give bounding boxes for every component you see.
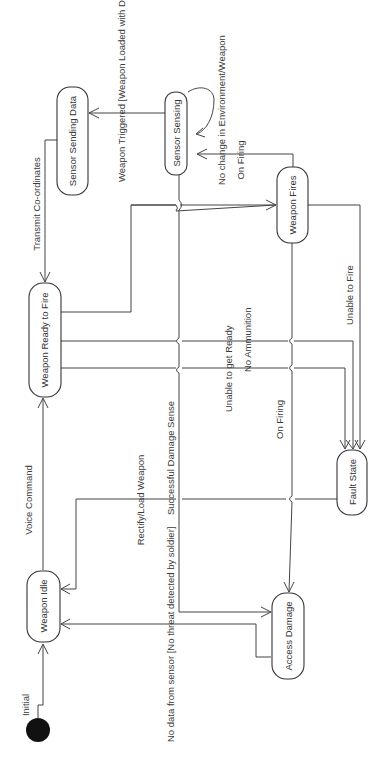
state-diagram: Sensor Sending Data Sensor Sensing Weapo…	[0, 0, 387, 777]
edge-voice-command	[38, 398, 48, 570]
edge-unable-to-get-ready	[61, 341, 358, 449]
state-sensor-sending-data: Sensor Sending Data	[57, 87, 88, 195]
edge-self-loop-no-change	[188, 88, 214, 137]
edge-weapon-triggered	[61, 200, 276, 312]
svg-text:Weapon Idle: Weapon Idle	[38, 579, 49, 632]
label-on-firing-damage: On Firing	[274, 400, 285, 439]
svg-text:Weapon Fires: Weapon Fires	[287, 175, 298, 234]
label-unable-to-fire: Unable to Fire	[344, 265, 355, 325]
edge-no-ammunition	[61, 368, 350, 449]
state-sensor-sensing: Sensor Sensing	[165, 92, 187, 175]
state-weapon-fires: Weapon Fires	[277, 167, 308, 243]
label-voice-command: Voice Command	[23, 465, 34, 535]
svg-text:Sensor Sending Data: Sensor Sending Data	[67, 95, 78, 186]
state-weapon-idle: Weapon Idle	[27, 571, 60, 642]
label-unable-to-get-ready: Unable to get Ready	[223, 325, 234, 412]
edge-unable-to-fire	[308, 205, 365, 449]
svg-text:Access Damage: Access Damage	[283, 601, 294, 670]
label-rectify-load-weapon: Rectify/Load Weapon	[135, 455, 146, 546]
state-access-damage: Access Damage	[272, 593, 304, 679]
state-fault-state: Fault State	[337, 450, 367, 515]
edge-transmit-coordinates	[40, 140, 57, 282]
label-no-change-environment: No change in Environment/Weapon	[216, 35, 227, 185]
svg-text:Weapon Ready to Fire: Weapon Ready to Fire	[39, 293, 50, 388]
state-weapon-ready-to-fire: Weapon Ready to Fire	[29, 283, 61, 397]
label-successful-damage-sense: Successful Damage Sense	[165, 401, 176, 515]
label-no-ammunition: No Ammunition	[242, 308, 253, 372]
svg-text:Fault State: Fault State	[347, 459, 358, 505]
label-weapon-triggered: Weapon Triggered [Weapon Loaded with Det…	[116, 0, 127, 182]
svg-text:Sensor Sensing: Sensor Sensing	[171, 99, 182, 166]
label-no-data-from-sensor: No data from sensor [No threat detected …	[165, 527, 176, 742]
label-on-firing-sensor: On Firing	[235, 140, 246, 179]
edge-on-firing-to-damage	[284, 243, 294, 592]
edge-detect-movement	[89, 108, 165, 118]
edge-initial-to-weapon-idle	[38, 644, 48, 718]
initial-state-dot	[26, 718, 50, 742]
edge-rectify-load-weapon	[61, 499, 337, 594]
label-initial: Initial	[20, 694, 31, 716]
label-transmit-coordinates: Transmit Co-ordinates	[31, 157, 42, 251]
